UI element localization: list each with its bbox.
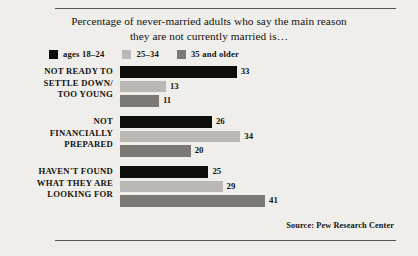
legend-swatch-25-34 [122,50,131,59]
legend-item-ages-18-24: ages 18–24 [49,49,104,59]
bar-row-2-0: 25 [120,166,418,178]
category-label-1-line-3: PREPARED [64,139,113,149]
legend-label-25-34: 25–34 [136,49,158,59]
bars-group-0: 33 13 11 [120,66,418,110]
bar-row-2-1: 29 [120,181,418,193]
chart-source: Source: Pew Research Center [286,221,394,230]
bar-value-0-1: 13 [170,81,179,93]
bar-0-1 [120,81,166,93]
chart-title-line-1: Percentage of never-married adults who s… [20,14,398,29]
bar-row-2-2: 41 [120,195,418,207]
bar-2-2 [120,195,265,207]
chart-plot-area: NOT READY TO SETTLE DOWN/ TOO YOUNG 33 1… [0,66,418,216]
bar-value-0-0: 33 [241,66,250,78]
category-label-2-line-2: WHAT THEY ARE [37,178,113,188]
bar-value-1-2: 20 [195,145,204,157]
bar-2-0 [120,166,208,178]
bar-value-2-0: 25 [212,166,221,178]
category-label-1: NOT FINANCIALLY PREPARED [0,116,113,151]
bar-1-2 [120,145,191,157]
category-label-2: HAVEN'T FOUND WHAT THEY ARE LOOKING FOR [0,166,113,201]
bar-0-0 [120,66,237,78]
bar-value-1-1: 34 [244,131,253,143]
bar-row-1-1: 34 [120,131,418,143]
chart-figure: Percentage of never-married adults who s… [0,0,418,256]
bar-1-1 [120,131,240,143]
bar-2-1 [120,181,223,193]
bar-value-1-0: 26 [216,116,225,128]
chart-title-line-2: they are not currently married is… [20,29,398,44]
legend-swatch-ages-18-24 [49,50,58,59]
bar-value-2-1: 29 [227,181,236,193]
bars-group-2: 25 29 41 [120,166,418,210]
category-label-1-line-2: FINANCIALLY [50,128,113,138]
bar-group-not-ready-to-settle-down: NOT READY TO SETTLE DOWN/ TOO YOUNG 33 1… [0,66,418,109]
legend-swatch-35-and-older [177,50,186,59]
top-divider [55,8,396,9]
bar-group-not-financially-prepared: NOT FINANCIALLY PREPARED 26 34 20 [0,116,418,159]
category-label-2-line-3: LOOKING FOR [47,189,113,199]
bottom-divider [55,240,396,241]
bar-0-2 [120,95,159,107]
bar-group-havent-found-what-looking-for: HAVEN'T FOUND WHAT THEY ARE LOOKING FOR … [0,166,418,209]
bar-value-0-2: 11 [163,95,171,107]
bar-1-0 [120,116,212,128]
bar-value-2-2: 41 [269,195,278,207]
category-label-0-line-1: NOT READY TO [44,66,113,76]
category-label-1-line-1: NOT [93,116,113,126]
category-label-2-line-1: HAVEN'T FOUND [38,166,113,176]
chart-legend: ages 18–24 25–34 35 and older [49,48,257,60]
category-label-0-line-3: TOO YOUNG [57,89,113,99]
bar-row-0-1: 13 [120,81,418,93]
chart-title: Percentage of never-married adults who s… [20,14,398,43]
bar-row-1-2: 20 [120,145,418,157]
category-label-0: NOT READY TO SETTLE DOWN/ TOO YOUNG [0,66,113,101]
bar-row-0-2: 11 [120,95,418,107]
category-label-0-line-2: SETTLE DOWN/ [44,78,113,88]
legend-label-ages-18-24: ages 18–24 [63,49,104,59]
legend-item-25-34: 25–34 [122,49,158,59]
legend-label-35-and-older: 35 and older [191,49,239,59]
bar-row-1-0: 26 [120,116,418,128]
bar-row-0-0: 33 [120,66,418,78]
bars-group-1: 26 34 20 [120,116,418,160]
legend-item-35-and-older: 35 and older [177,49,239,59]
